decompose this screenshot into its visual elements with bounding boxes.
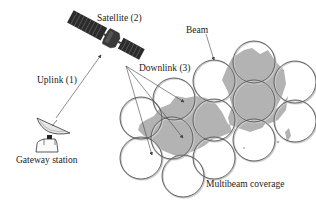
- uplink-ray: [56, 55, 101, 118]
- gateway-dish-icon: [36, 118, 70, 152]
- multibeam-diagram: [0, 0, 316, 207]
- beam-label: Beam: [186, 26, 208, 36]
- uplink-label: Uplink (1): [37, 76, 77, 86]
- downlink-label: Downlink (3): [139, 64, 190, 74]
- beam-circle: [193, 137, 235, 179]
- beam-circle: [274, 100, 316, 142]
- beam-pointer: [206, 34, 214, 60]
- beam-circle: [162, 155, 204, 197]
- gateway-label: Gateway station: [16, 156, 77, 166]
- coverage-label: Multibeam coverage: [206, 180, 284, 190]
- satellite-label: Satellite (2): [97, 14, 142, 24]
- beam-circle: [120, 137, 162, 179]
